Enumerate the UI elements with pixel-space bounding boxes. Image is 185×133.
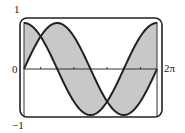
y-min-label: −1 <box>12 120 24 131</box>
y-max-label: 1 <box>14 4 20 15</box>
x-max-label: 2π <box>164 63 175 74</box>
origin-label: 0 <box>12 64 18 75</box>
plot-area <box>0 0 185 133</box>
